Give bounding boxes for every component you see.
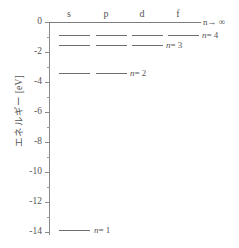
y-tick-minus4 xyxy=(45,82,50,83)
y-tick-minus6 xyxy=(45,112,50,113)
y-tick-label-minus10: -10 xyxy=(3,167,45,177)
level-label-n-infinity-rest: → ∞ xyxy=(208,17,226,27)
column-header-p: p xyxy=(95,8,117,19)
y-tick-label-minus6-wrap: -6 xyxy=(0,107,45,117)
y-tick-label-minus2: -2 xyxy=(3,47,45,57)
y-tick-minus14 xyxy=(45,232,50,233)
level-label-n1-rest: = 1 xyxy=(99,225,111,235)
level-label-n4-rest: = 4 xyxy=(207,30,219,40)
y-tick-minor-minus9 xyxy=(47,157,50,158)
y-tick-label-minus14-wrap: -14 xyxy=(0,227,45,237)
y-tick-label-minus8-wrap: -8 xyxy=(0,137,45,147)
level-line-n4-s xyxy=(59,35,90,36)
level-line-n4-d xyxy=(132,35,163,36)
level-line-n4-p xyxy=(96,35,127,36)
energy-level-diagram: エネルギー [eV] 0 -2 -4 -6 -8 -10 -12 -14 s p… xyxy=(0,0,239,248)
y-tick-minus10 xyxy=(45,172,50,173)
y-tick-label-minus2-wrap: -2 xyxy=(0,47,45,57)
y-tick-label-0: 0 xyxy=(3,17,45,27)
y-tick-minus8 xyxy=(45,142,50,143)
level-label-n1: n= 1 xyxy=(94,226,110,235)
level-label-n-infinity: n→ ∞ xyxy=(203,18,225,27)
level-line-n2-s xyxy=(59,73,90,74)
y-tick-minor-minus7 xyxy=(47,127,50,128)
column-header-f: f xyxy=(167,8,189,19)
level-line-n2-p xyxy=(96,73,127,74)
level-line-n3-s xyxy=(59,45,90,46)
y-tick-label-minus10-wrap: -10 xyxy=(0,167,45,177)
y-tick-label-minus14: -14 xyxy=(3,227,45,237)
level-label-n2-rest: = 2 xyxy=(135,68,147,78)
level-line-n3-d xyxy=(132,45,163,46)
y-tick-label-minus4: -4 xyxy=(3,77,45,87)
y-tick-minus2 xyxy=(45,52,50,53)
y-tick-minor-minus5 xyxy=(47,97,50,98)
y-tick-minor-minus3 xyxy=(47,67,50,68)
level-line-n3-p xyxy=(96,45,127,46)
column-header-s: s xyxy=(58,8,80,19)
level-label-n3-rest: = 3 xyxy=(171,40,183,50)
y-tick-label-minus4-wrap: -4 xyxy=(0,77,45,87)
y-tick-minor-minus11 xyxy=(47,187,50,188)
y-tick-minus12 xyxy=(45,202,50,203)
y-tick-minor-minus1 xyxy=(47,37,50,38)
level-label-n2: n= 2 xyxy=(130,69,146,78)
level-label-n3: n= 3 xyxy=(166,41,182,50)
level-line-continuum xyxy=(49,22,201,23)
y-axis-line xyxy=(49,22,50,235)
level-line-n1-s xyxy=(59,230,90,231)
y-tick-label-minus12: -12 xyxy=(3,197,45,207)
y-tick-minor-minus13 xyxy=(47,217,50,218)
column-header-d: d xyxy=(131,8,153,19)
y-tick-label-minus6: -6 xyxy=(3,107,45,117)
y-tick-label-minus8: -8 xyxy=(3,137,45,147)
y-tick-label-minus12-wrap: -12 xyxy=(0,197,45,207)
level-line-n4-f xyxy=(168,35,199,36)
y-tick-label-0-wrap: 0 xyxy=(0,17,45,27)
level-label-n4: n= 4 xyxy=(202,31,218,40)
